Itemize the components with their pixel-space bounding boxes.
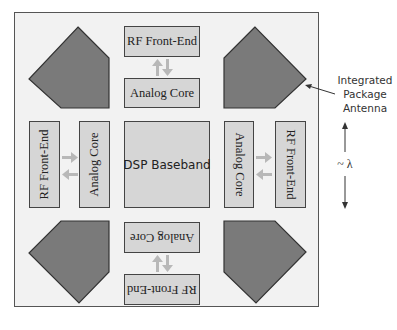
- antenna-top-right: [224, 27, 306, 108]
- package-diagram: RF Front-End Analog Core DSP Baseband RF…: [0, 0, 397, 330]
- antenna-annotation: Integrated Package Antenna: [330, 73, 397, 115]
- top-rf-front-end-block: RF Front-End: [124, 26, 200, 57]
- dsp-baseband-block: DSP Baseband: [124, 121, 210, 208]
- antenna-bottom-right: [224, 221, 306, 303]
- antenna-label-line3: Antenna: [330, 101, 397, 115]
- right-signal-arrows: [256, 152, 272, 180]
- block-label: Analog Core: [87, 132, 102, 196]
- antenna-label-line1: Integrated: [330, 73, 397, 87]
- left-signal-arrows: [62, 152, 78, 180]
- antenna-label-line2: Package: [330, 87, 397, 101]
- top-signal-arrows: [152, 59, 173, 76]
- block-label: RF Front-End: [127, 282, 197, 297]
- block-label: Analog Core: [232, 132, 247, 196]
- block-label: Analog Core: [130, 86, 194, 101]
- bottom-analog-core-block: Analog Core: [124, 222, 200, 253]
- wavelength-label: ~ λ: [327, 157, 363, 171]
- block-label: RF Front-End: [127, 34, 197, 49]
- top-analog-core-block: Analog Core: [124, 78, 200, 108]
- bottom-rf-front-end-block: RF Front-End: [124, 274, 200, 305]
- block-label: RF Front-End: [37, 130, 52, 200]
- block-label: Analog Core: [130, 230, 194, 245]
- block-label: DSP Baseband: [123, 158, 210, 172]
- left-analog-core-block: Analog Core: [79, 121, 110, 208]
- right-analog-core-block: Analog Core: [224, 121, 254, 208]
- antenna-top-left: [29, 27, 109, 108]
- left-rf-front-end-block: RF Front-End: [29, 121, 60, 208]
- bottom-signal-arrows: [152, 255, 173, 272]
- block-label: RF Front-End: [283, 130, 298, 200]
- antenna-bottom-left: [29, 221, 109, 303]
- right-rf-front-end-block: RF Front-End: [275, 121, 306, 208]
